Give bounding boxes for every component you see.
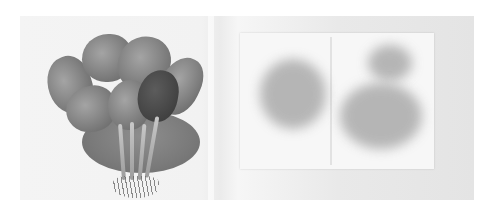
paper-fold bbox=[330, 37, 332, 165]
backdrop-seam bbox=[208, 16, 214, 200]
stem bbox=[130, 122, 134, 180]
leaf-imprint bbox=[368, 45, 412, 81]
paper-sheet bbox=[240, 33, 434, 169]
leaf-imprint bbox=[260, 59, 326, 129]
roots bbox=[113, 176, 159, 198]
photograph bbox=[20, 16, 474, 200]
leaf-imprint bbox=[340, 83, 422, 149]
